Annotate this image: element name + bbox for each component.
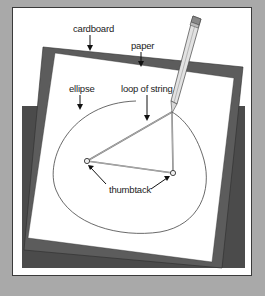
label-ellipse: ellipse — [69, 83, 95, 94]
thumbtack-left — [84, 158, 89, 163]
label-loop-of-string: loop of string — [121, 83, 173, 94]
label-paper: paper — [131, 40, 154, 51]
label-cardboard: cardboard — [73, 23, 114, 34]
thumbtack-right — [170, 170, 175, 175]
label-thumbtack: thumbtack — [109, 184, 151, 195]
